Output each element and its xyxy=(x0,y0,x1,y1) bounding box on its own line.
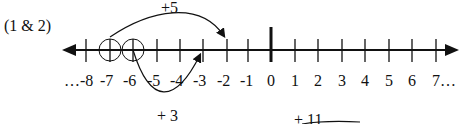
tick-label: -7 xyxy=(100,73,113,89)
tick-label: 0 xyxy=(267,73,275,89)
jump-label-plus3: + 3 xyxy=(157,108,178,124)
tick-label: …-8 xyxy=(64,73,93,89)
tick-label: 6 xyxy=(408,73,416,89)
left-arrowhead-icon xyxy=(62,44,76,56)
tick-label: -5 xyxy=(147,73,160,89)
tick-label: -4 xyxy=(170,73,183,89)
right-arrowhead-icon xyxy=(445,44,459,56)
tick-label: 7… xyxy=(432,73,456,89)
tick-label: -6 xyxy=(123,73,136,89)
tick-label: 2 xyxy=(314,73,322,89)
tick-label: -2 xyxy=(217,73,230,89)
tick-label: 5 xyxy=(385,73,393,89)
jump-arrow-plus5 xyxy=(110,13,224,37)
tick-label: 4 xyxy=(361,73,369,89)
number-line-diagram xyxy=(0,0,459,124)
jump-arrow-plus3 xyxy=(133,50,200,92)
jump-label-plus11: + 11 xyxy=(294,112,322,124)
jump-label-plus5: +5 xyxy=(161,0,178,16)
tick-label: 1 xyxy=(291,73,299,89)
tick-label: 3 xyxy=(338,73,346,89)
tick-label: -3 xyxy=(193,73,206,89)
tick-label: -1 xyxy=(240,73,253,89)
problem-label: (1 & 2) xyxy=(4,18,51,34)
